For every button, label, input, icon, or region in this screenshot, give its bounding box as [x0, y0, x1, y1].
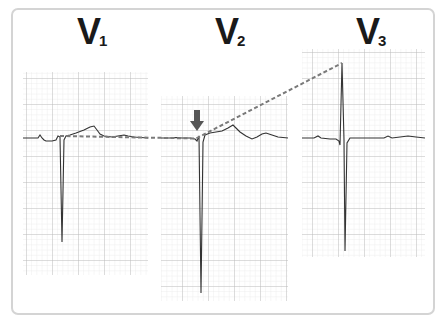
ecg-drawing: [0, 0, 443, 324]
grid-v2: [161, 96, 288, 301]
grid-v1: [23, 72, 148, 275]
grid-v3: [302, 49, 425, 257]
